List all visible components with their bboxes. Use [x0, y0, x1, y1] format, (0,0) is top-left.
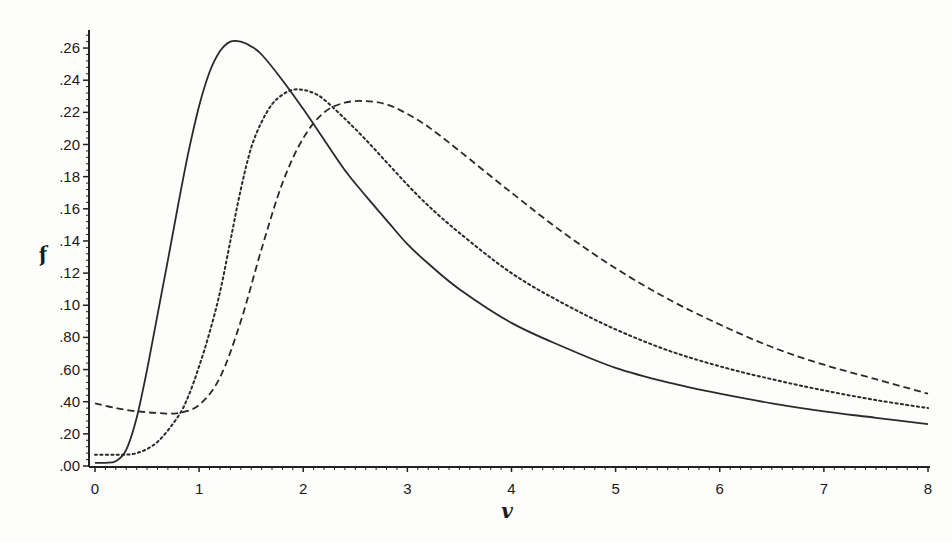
x-tick-label: 6 — [716, 480, 724, 497]
series-solid-line — [95, 41, 928, 463]
x-tick-label: 4 — [507, 480, 515, 497]
y-tick-label: .18 — [59, 168, 80, 185]
y-tick-label: .20 — [59, 425, 80, 442]
series-group — [95, 41, 928, 463]
x-axis-title: v — [501, 499, 513, 523]
y-tick-label: .26 — [59, 39, 80, 56]
y-tick-label: .10 — [59, 296, 80, 313]
y-tick-label: .16 — [59, 200, 80, 217]
y-tick-label: .80 — [59, 328, 80, 345]
y-tick-label: .12 — [59, 264, 80, 281]
y-tick-label: .24 — [59, 71, 80, 88]
x-tick-label: 2 — [299, 480, 307, 497]
x-tick-label: 5 — [611, 480, 619, 497]
x-tick-label: 8 — [924, 480, 932, 497]
x-tick-label: 7 — [820, 480, 828, 497]
y-tick-label: .60 — [59, 361, 80, 378]
y-axis-title: f — [34, 241, 53, 267]
y-tick-label: .14 — [59, 232, 80, 249]
x-tick-label: 0 — [91, 480, 99, 497]
x-tick-label: 1 — [195, 480, 203, 497]
series-dashed-line — [95, 101, 928, 414]
y-tick-label: .22 — [59, 103, 80, 120]
series-dotted-line — [95, 89, 928, 455]
chart-plot: .00.20.40.60.80.10.12.14.16.18.20.22.24.… — [0, 0, 952, 543]
x-tick-label: 3 — [403, 480, 411, 497]
y-tick-label: .40 — [59, 393, 80, 410]
y-tick-label: .20 — [59, 136, 80, 153]
axes: .00.20.40.60.80.10.12.14.16.18.20.22.24.… — [59, 30, 932, 497]
y-tick-label: .00 — [59, 457, 80, 474]
